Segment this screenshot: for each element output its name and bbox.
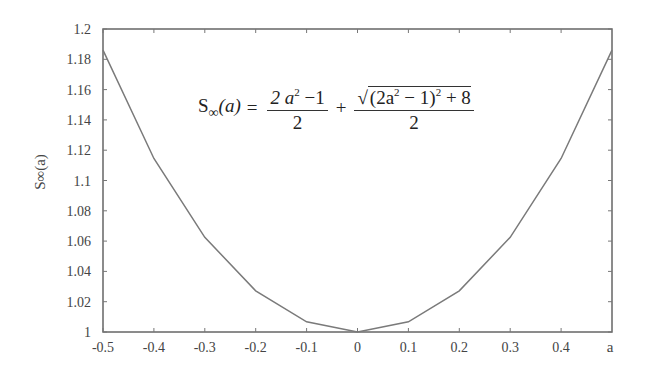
formula-plus: + xyxy=(336,97,347,119)
formula-fraction-2: √(2a2 − 1)2 + 8 2 xyxy=(354,80,473,135)
y-tick-label: 1.08 xyxy=(67,204,92,219)
formula-equals: = xyxy=(247,97,258,119)
y-tick-label: 1.1 xyxy=(74,174,92,189)
x-tick-label: -0.2 xyxy=(245,340,267,355)
y-axis-label: S∞(a) xyxy=(32,154,49,190)
y-tick-label: 1.02 xyxy=(67,295,92,310)
x-tick-label: 0.1 xyxy=(400,340,418,355)
y-tick-label: 1.2 xyxy=(74,22,92,37)
y-axis-ticks: 11.021.041.061.081.11.121.141.161.181.2 xyxy=(67,22,613,340)
x-tick-label: -0.1 xyxy=(296,340,318,355)
x-axis-ticks: -0.5-0.4-0.3-0.2-0.100.10.20.30.4a xyxy=(92,29,614,355)
formula-lhs: S∞(a) xyxy=(198,95,241,121)
y-tick-label: 1.14 xyxy=(67,113,92,128)
chart: 11.021.041.061.081.11.121.141.161.181.2 … xyxy=(0,0,649,380)
y-tick-label: 1.16 xyxy=(67,83,92,98)
x-axis-label: a xyxy=(607,339,614,355)
y-tick-label: 1.06 xyxy=(67,234,92,249)
y-tick-label: 1.12 xyxy=(67,143,92,158)
y-tick-label: 1.04 xyxy=(67,264,92,279)
x-tick-label: 0.3 xyxy=(501,340,519,355)
x-tick-label: 0 xyxy=(354,340,361,355)
x-tick-label: -0.3 xyxy=(194,340,216,355)
x-tick-label: 0.4 xyxy=(552,340,570,355)
x-tick-label: 0.2 xyxy=(451,340,469,355)
formula-annotation: S∞(a) = 2 a2 −1 2 + √(2a2 − 1)2 + 8 2 xyxy=(198,80,478,135)
x-tick-label: -0.5 xyxy=(92,340,114,355)
y-tick-label: 1 xyxy=(84,325,91,340)
plot-frame xyxy=(103,29,612,332)
y-tick-label: 1.18 xyxy=(67,52,92,67)
formula-fraction-1: 2 a2 −1 2 xyxy=(267,80,327,135)
x-tick-label: -0.4 xyxy=(143,340,165,355)
